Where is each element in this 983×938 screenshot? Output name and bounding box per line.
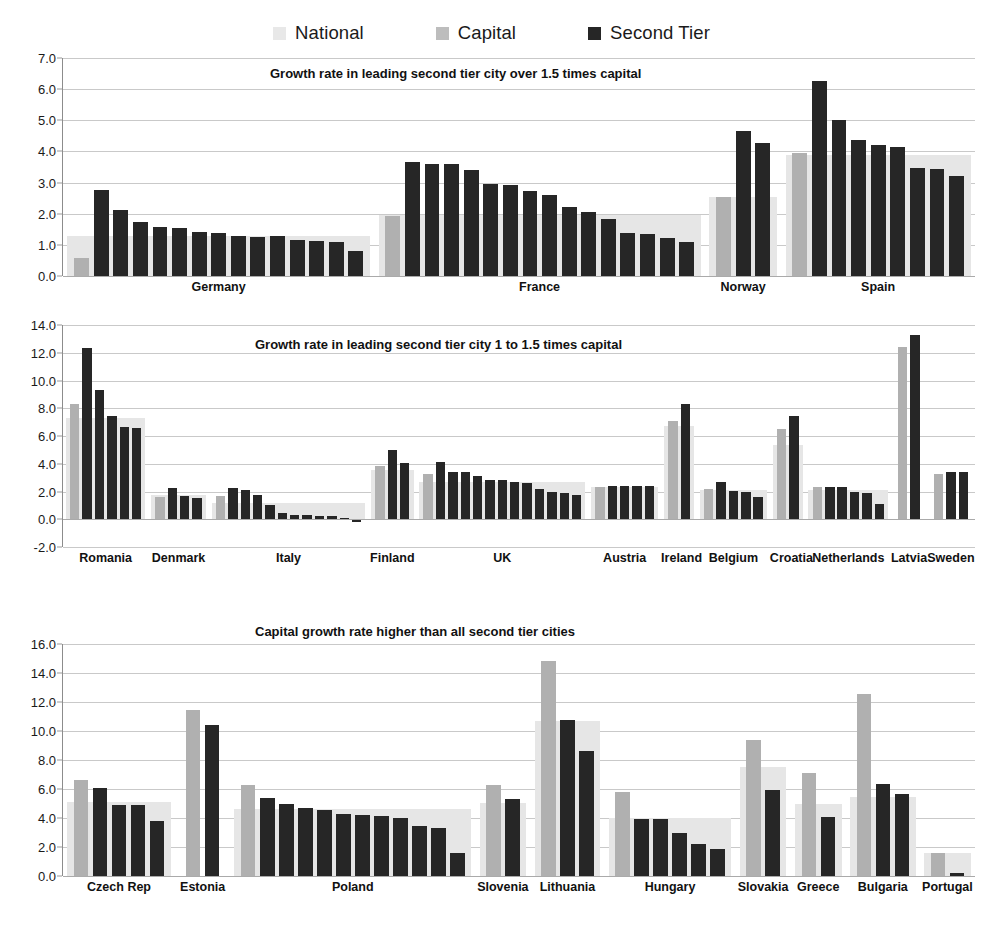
bars: [806, 325, 891, 547]
bar-group: Finland: [368, 325, 416, 547]
bars: [63, 325, 148, 547]
bar-group: Germany: [63, 58, 374, 276]
bar-capital: [704, 489, 713, 519]
y-tick-label: 14.0: [31, 666, 56, 681]
bar-second-tier: [741, 492, 750, 520]
bar-second-tier: [581, 212, 596, 276]
bar-group: Estonia: [175, 644, 230, 876]
bar-second-tier: [946, 472, 955, 519]
bar-group: Netherlands: [806, 325, 891, 547]
bar-second-tier: [329, 242, 344, 276]
bar-group: Slovakia: [736, 644, 791, 876]
bar-second-tier: [542, 195, 557, 276]
bar-groups-1: RomaniaDenmarkItalyFinlandUKAustriaIrela…: [63, 325, 975, 547]
y-tick-label: 8.0: [38, 401, 56, 416]
bar-capital: [541, 661, 555, 876]
chart-title-1: Growth rate in leading second tier city …: [255, 337, 622, 352]
plot-area-0: GermanyFranceNorwaySpain: [62, 58, 975, 276]
y-tick-label: 12.0: [31, 695, 56, 710]
bar-second-tier: [298, 808, 312, 876]
group-label: Czech Rep: [63, 880, 175, 894]
bars: [927, 325, 975, 547]
bars: [770, 325, 806, 547]
bar-second-tier: [172, 228, 187, 276]
group-label: Norway: [705, 280, 781, 294]
bar-capital: [777, 429, 786, 519]
y-tick-label: 4.0: [38, 811, 56, 826]
bar-second-tier: [231, 236, 246, 276]
bar-second-tier: [736, 131, 751, 276]
bar-second-tier: [150, 821, 164, 876]
bar-second-tier: [192, 232, 207, 276]
bar-second-tier: [645, 486, 654, 519]
bar-second-tier: [133, 222, 148, 276]
bars: [781, 58, 975, 276]
bar-group: France: [374, 58, 705, 276]
bar-second-tier: [113, 210, 128, 276]
bar-second-tier: [601, 219, 616, 276]
bar-second-tier: [473, 476, 482, 519]
bar-second-tier: [95, 390, 104, 519]
group-label: UK: [416, 551, 588, 565]
bar-second-tier: [789, 416, 798, 519]
bar-second-tier: [653, 819, 667, 876]
bars: [416, 325, 588, 547]
bar-group: Croatia: [770, 325, 806, 547]
y-tick-label: 6.0: [38, 782, 56, 797]
bar-second-tier: [483, 184, 498, 276]
bar-second-tier: [270, 236, 285, 276]
chart-title-2: Capital growth rate higher than all seco…: [255, 624, 575, 639]
bar-second-tier: [260, 798, 274, 876]
bar-second-tier: [691, 844, 705, 876]
bar-second-tier: [710, 849, 724, 876]
legend-swatch-second-tier: [588, 27, 601, 40]
y-tick-label: 1.0: [38, 237, 56, 252]
y-tick-label: 0.0: [38, 269, 56, 284]
bar-second-tier: [930, 169, 945, 276]
group-label: Finland: [368, 551, 416, 565]
legend-swatch-national: [273, 27, 286, 40]
group-label: France: [374, 280, 705, 294]
bars: [374, 58, 705, 276]
bar-second-tier: [572, 495, 581, 519]
bar-second-tier: [716, 482, 725, 519]
bar-second-tier: [400, 463, 409, 519]
y-tick-label: 12.0: [31, 345, 56, 360]
group-label: Poland: [230, 880, 475, 894]
bar-second-tier: [192, 498, 201, 519]
bar-second-tier: [660, 238, 675, 276]
bar-second-tier: [425, 164, 440, 276]
group-label: Sweden: [927, 551, 975, 565]
bar-second-tier: [890, 147, 905, 276]
bar-group: Czech Rep: [63, 644, 175, 876]
bars: [230, 644, 475, 876]
bar-second-tier: [832, 120, 847, 276]
bar-second-tier: [374, 816, 388, 876]
bar-second-tier: [444, 164, 459, 276]
bar-second-tier: [812, 81, 827, 276]
bars: [846, 644, 920, 876]
group-label: Bulgaria: [846, 880, 920, 894]
y-axis-2: 0.02.04.06.08.010.012.014.016.0: [0, 622, 62, 922]
group-label: Greece: [791, 880, 846, 894]
bar-second-tier: [94, 190, 109, 276]
bar-second-tier: [82, 348, 91, 520]
legend-swatch-capital: [436, 27, 449, 40]
bar-second-tier: [949, 176, 964, 276]
legend-label-national: National: [295, 22, 364, 44]
group-label: Romania: [63, 551, 148, 565]
legend-entry-national: National: [273, 22, 364, 44]
bar-second-tier: [412, 826, 426, 876]
bar-group: Ireland: [661, 325, 697, 547]
y-tick-label: -2.0: [34, 540, 56, 555]
gridline: [63, 547, 975, 548]
y-tick-label: 2.0: [38, 206, 56, 221]
bar-capital: [934, 474, 943, 520]
bar-group: Austria: [588, 325, 661, 547]
bars: [368, 325, 416, 547]
bar-second-tier: [241, 490, 250, 519]
bar-second-tier: [405, 162, 420, 276]
bar-second-tier: [279, 804, 293, 876]
bar-capital: [74, 258, 89, 276]
plot-area-2: Czech RepEstoniaPolandSloveniaLithuaniaH…: [62, 644, 975, 876]
